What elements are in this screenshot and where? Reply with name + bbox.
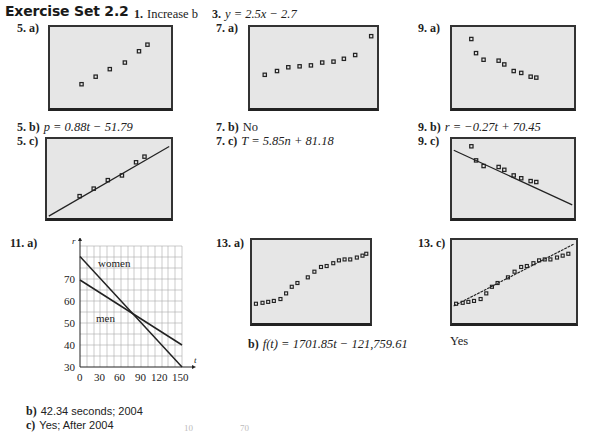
chart-7a: [248, 25, 379, 111]
answer-label: 3.: [212, 7, 221, 21]
answer-label: 9. b): [418, 120, 441, 134]
svg-text:120: 120: [151, 371, 168, 383]
answer-11c: c) Yes; After 2004: [26, 415, 114, 432]
label-5c: 5. c): [17, 134, 38, 149]
answer-5b: 5. b) p = 0.88t − 51.79: [17, 117, 133, 135]
cut-off-text: 70: [240, 423, 249, 432]
answer-label: 7. c): [216, 134, 237, 148]
chart-9c: [450, 137, 576, 221]
svg-text:30: 30: [64, 361, 76, 373]
svg-text:women: women: [98, 257, 131, 269]
answer-label: b): [248, 337, 259, 351]
svg-text:30: 30: [94, 371, 106, 383]
label-13a: 13. a): [216, 236, 244, 251]
answer-text: r = −0.27t + 70.45: [445, 120, 541, 134]
svg-text:t: t: [194, 355, 197, 365]
section-title: Exercise Set 2.2: [5, 3, 129, 19]
svg-text:40: 40: [64, 339, 76, 351]
answer-text: Yes; After 2004: [39, 419, 113, 431]
svg-text:r: r: [72, 238, 76, 246]
answer-text: f(t) = 1701.85t − 121,759.61: [263, 337, 408, 351]
svg-text:150: 150: [172, 371, 189, 383]
chart-5a: [48, 25, 173, 111]
svg-text:60: 60: [114, 371, 126, 383]
answer-3: 3. y = 2.5x − 2.7: [212, 4, 297, 22]
svg-text:50: 50: [64, 317, 76, 329]
cut-off-text: 10: [184, 423, 193, 432]
label-13c: 13. c): [418, 236, 445, 251]
label-9a: 9. a): [418, 21, 440, 36]
line-chart-11a: women men 3040 506070 03060 90120150 r t: [40, 238, 200, 388]
scatter-fit-plot-13c: [452, 240, 576, 323]
scatter-plot-7a: [250, 27, 377, 108]
chart-13c: [450, 238, 578, 326]
svg-text:70: 70: [64, 273, 76, 285]
answer-text: p = 0.88t − 51.79: [44, 120, 133, 134]
scatter-fit-plot-9c: [452, 139, 574, 218]
chart-13a: [250, 238, 372, 326]
chart-9a: [450, 25, 576, 111]
label-11a: 11. a): [10, 236, 37, 251]
scatter-fit-plot-5c: [47, 139, 171, 218]
scatter-plot-13a: [252, 240, 370, 323]
answer-1: 1. Increase b: [134, 4, 198, 22]
answer-13c: Yes: [450, 334, 468, 349]
svg-text:men: men: [96, 312, 115, 324]
scatter-plot-5a: [50, 27, 171, 108]
answer-7c: 7. c) T = 5.85n + 81.18: [216, 131, 334, 149]
answer-13b: b) f(t) = 1701.85t − 121,759.61: [248, 334, 408, 352]
answer-9b: 9. b) r = −0.27t + 70.45: [418, 117, 541, 135]
answer-label: c): [26, 418, 35, 432]
answer-text: Increase b: [147, 7, 198, 21]
answer-label: 5. b): [17, 120, 40, 134]
scatter-plot-9a: [452, 27, 574, 108]
chart-11a: women men 3040 506070 03060 90120150 r t: [40, 238, 200, 388]
svg-text:90: 90: [135, 371, 147, 383]
label-9c: 9. c): [418, 134, 439, 149]
svg-text:0: 0: [77, 371, 83, 383]
answer-text: T = 5.85n + 81.18: [241, 134, 333, 148]
svg-text:60: 60: [64, 295, 76, 307]
label-7a: 7. a): [216, 21, 238, 36]
chart-5c: [45, 137, 173, 221]
answer-label: 1.: [134, 7, 143, 21]
answer-text: y = 2.5x − 2.7: [225, 7, 297, 21]
label-5a: 5. a): [17, 21, 39, 36]
